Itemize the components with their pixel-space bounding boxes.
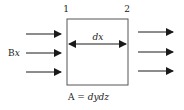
corner-label-1: 1 xyxy=(63,4,69,14)
incoming-flux-label: Bx xyxy=(8,48,20,58)
width-label: dx xyxy=(93,32,104,42)
area-label: A = dydz xyxy=(67,92,109,102)
area-label-prefix: A = xyxy=(67,92,88,102)
control-volume-box xyxy=(67,19,128,85)
flux-subscript: x xyxy=(15,48,20,58)
flux-diagram: 1 2 dx Bx A = dydz xyxy=(0,0,184,110)
area-label-expr: dydz xyxy=(88,92,110,102)
corner-label-2: 2 xyxy=(124,4,130,14)
